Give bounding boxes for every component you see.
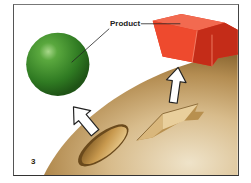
green-sphere [26, 33, 89, 96]
product-label: Product [110, 19, 140, 28]
diagram-scene [14, 5, 238, 175]
panel-number: 3 [31, 157, 35, 166]
figure-frame: Product 3 [13, 4, 239, 176]
